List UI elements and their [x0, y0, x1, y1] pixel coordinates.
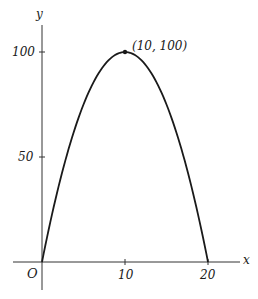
x-axis-label: x	[243, 254, 250, 266]
origin-label: O	[27, 267, 38, 280]
parabola-curve	[42, 52, 208, 262]
vertex-point	[123, 50, 127, 54]
x-tick-label-20: 20	[200, 269, 215, 281]
parabola-chart	[0, 0, 258, 299]
x-tick-label-10: 10	[118, 269, 133, 281]
y-tick-label-100: 100	[12, 46, 35, 58]
y-tick-label-50: 50	[18, 151, 33, 163]
vertex-annotation: (10, 100)	[132, 40, 187, 52]
y-axis-label: y	[36, 8, 43, 20]
